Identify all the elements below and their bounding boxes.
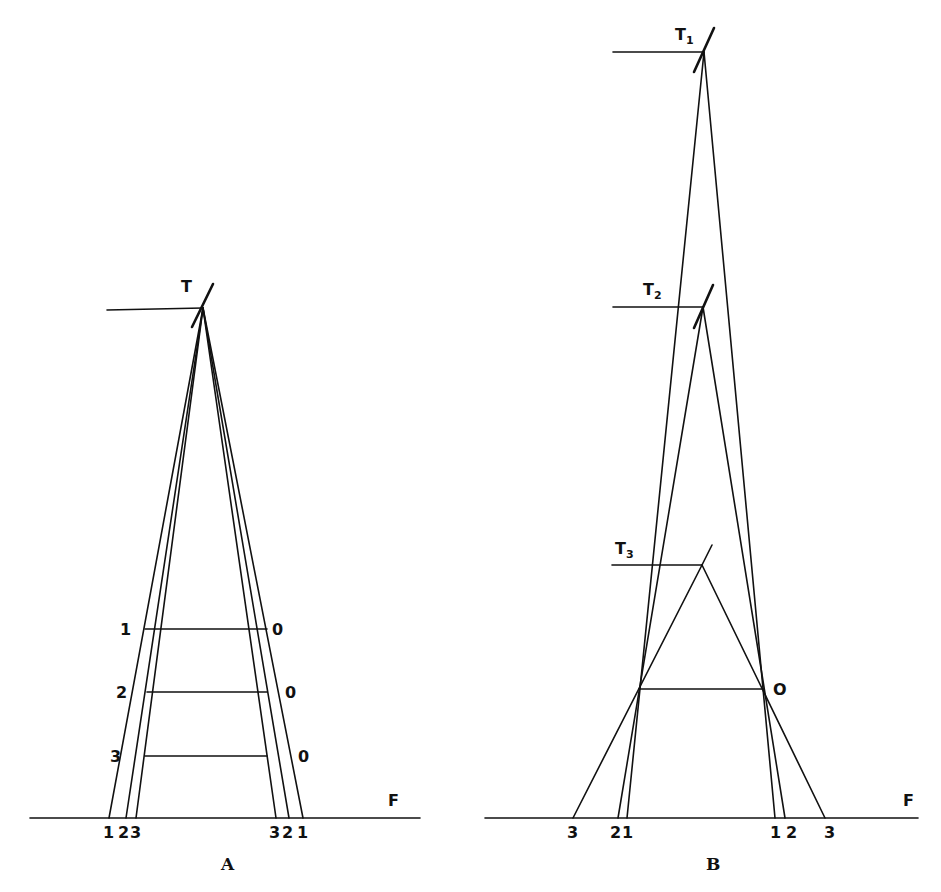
ray-left-2: [126, 308, 203, 818]
apex-slash-t3: [702, 545, 712, 565]
base-b-left-label-3: 3: [567, 823, 578, 842]
base-left-label-2: 2: [118, 823, 129, 842]
figure-b: T 1 T 2 T 3 O F 3 2 1 1 2 3 B: [485, 25, 918, 874]
base-left-label-1: 1: [103, 823, 114, 842]
base-b-right-label-2: 2: [786, 823, 797, 842]
ray-t3-right: [702, 565, 825, 818]
figure-a: T F 1 2 3 0 0 0 1 2 3 3 2 1 A: [30, 277, 420, 874]
right-label-0-2: 0: [285, 683, 296, 702]
base-b-right-label-3: 3: [824, 823, 835, 842]
left-label-3: 3: [110, 747, 121, 766]
floor-label-f-b: F: [903, 791, 914, 810]
ray-right-2: [203, 308, 289, 818]
apex-label-t2-sub: 2: [654, 289, 662, 302]
apex-label-t3-sub: 3: [626, 548, 634, 561]
ray-t2-left: [618, 307, 703, 818]
base-b-left-label-1: 1: [622, 823, 633, 842]
ray-t3-left: [573, 565, 702, 818]
perspective-diagram: T F 1 2 3 0 0 0 1 2 3 3 2 1 A: [0, 0, 941, 892]
ray-t1-right: [704, 52, 775, 818]
base-b-right-label-1: 1: [770, 823, 781, 842]
apex-horizontal-a: [107, 308, 203, 310]
apex-slash-t1: [694, 28, 714, 72]
caption-b: B: [706, 854, 720, 874]
apex-label-t: T: [181, 277, 192, 296]
ray-left-3: [136, 308, 203, 818]
right-label-0-1: 0: [272, 620, 283, 639]
apex-label-t1: T: [675, 25, 686, 44]
ray-t1-left: [627, 52, 704, 818]
base-left-label-3: 3: [130, 823, 141, 842]
left-label-1: 1: [120, 620, 131, 639]
base-right-label-3: 3: [269, 823, 280, 842]
apex-label-t1-sub: 1: [686, 34, 694, 47]
ray-right-3: [203, 308, 276, 818]
apex-label-t3: T: [615, 539, 626, 558]
apex-label-t2: T: [643, 280, 654, 299]
ray-right-1: [203, 308, 303, 818]
apex-slash-a: [192, 284, 213, 327]
crossbar-label-o: O: [773, 680, 787, 699]
base-right-label-1: 1: [297, 823, 308, 842]
base-right-label-2: 2: [282, 823, 293, 842]
caption-a: A: [220, 854, 235, 874]
base-b-left-label-2: 2: [610, 823, 621, 842]
ray-t2-right: [703, 307, 785, 818]
right-label-0-3: 0: [298, 747, 309, 766]
floor-label-f-a: F: [388, 791, 399, 810]
left-label-2: 2: [116, 683, 127, 702]
ray-left-1: [109, 308, 203, 818]
